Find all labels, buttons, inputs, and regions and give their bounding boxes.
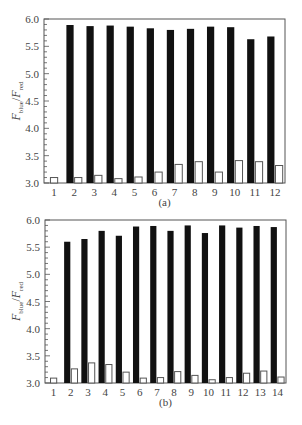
y-tick-label: 5.0	[26, 268, 40, 280]
x-tick-label: 11	[220, 386, 231, 398]
x-tick-label: 8	[192, 186, 198, 198]
y-tick-label: 6.0	[26, 214, 40, 226]
bar-open	[155, 172, 162, 183]
bar-filled	[127, 27, 134, 183]
x-tick-label: 12	[237, 386, 248, 398]
bar-open	[255, 162, 262, 183]
bar-open	[175, 164, 182, 183]
plot-frame	[45, 220, 286, 383]
y-tick-label: 5.5	[26, 241, 40, 253]
y-axis-label: Fblue/Fred	[9, 281, 25, 322]
bar-open	[140, 378, 146, 383]
bar-open	[157, 378, 163, 383]
bar-filled	[207, 27, 214, 183]
y-tick-label: 5.0	[25, 68, 39, 80]
x-tick-label: 8	[171, 386, 177, 398]
bar-open	[261, 371, 267, 383]
x-tick-label: 2	[68, 386, 74, 398]
bar-open	[95, 175, 102, 183]
bar-filled	[64, 242, 70, 383]
bar-open	[115, 179, 122, 183]
bar-open	[243, 373, 249, 383]
y-tick-label: 4.5	[26, 296, 40, 308]
bar-chart-b: 3.03.54.04.55.05.56.0Fblue/Fred123456789…	[0, 212, 302, 425]
bar-open	[226, 378, 232, 383]
bar-chart-a: 3.03.54.04.55.05.56.0Fblue/Fred123456789…	[0, 0, 302, 212]
chart-panel-b: 3.03.54.04.55.05.56.0Fblue/Fred123456789…	[0, 212, 302, 425]
bar-filled	[187, 29, 194, 183]
chart-panel-a: 3.03.54.04.55.05.56.0Fblue/Fred123456789…	[0, 0, 302, 212]
y-tick-label: 3.0	[25, 177, 39, 189]
bar-filled	[147, 28, 154, 183]
y-tick-label: 3.0	[26, 377, 40, 389]
bar-open	[123, 372, 129, 383]
x-tick-label: 12	[269, 186, 280, 198]
bar-filled	[66, 25, 73, 183]
bar-open	[106, 365, 112, 383]
bar-filled	[247, 39, 254, 183]
bar-filled	[150, 226, 156, 383]
x-tick-label: 10	[229, 186, 241, 198]
y-tick-label: 3.5	[26, 350, 40, 362]
x-tick-label: 1	[51, 186, 57, 198]
panel-caption: (b)	[159, 396, 172, 409]
bar-open	[71, 369, 77, 383]
bar-open	[51, 378, 57, 383]
bar-filled	[202, 233, 208, 383]
y-tick-label: 4.0	[26, 323, 40, 335]
panel-caption: (a)	[158, 196, 171, 209]
bar-open	[175, 372, 181, 383]
x-tick-label: 11	[250, 186, 261, 198]
y-tick-label: 5.5	[25, 40, 39, 52]
bar-filled	[236, 228, 242, 383]
bar-filled	[267, 36, 274, 183]
x-tick-label: 9	[189, 386, 195, 398]
y-tick-label: 4.0	[25, 122, 39, 134]
bar-filled	[86, 26, 93, 183]
x-tick-label: 9	[212, 186, 218, 198]
bar-open	[135, 177, 142, 183]
bar-filled	[116, 236, 122, 383]
bar-filled	[99, 231, 105, 383]
x-tick-label: 14	[272, 386, 284, 398]
bar-open	[89, 363, 95, 383]
bar-open	[192, 375, 198, 383]
x-tick-label: 6	[137, 386, 143, 398]
x-tick-label: 6	[152, 186, 158, 198]
x-tick-label: 3	[91, 186, 97, 198]
x-tick-label: 2	[71, 186, 77, 198]
x-tick-label: 5	[132, 186, 138, 198]
bar-filled	[185, 225, 191, 383]
bar-open	[275, 166, 282, 183]
y-tick-label: 4.5	[25, 95, 39, 107]
bar-filled	[133, 227, 139, 383]
bar-filled	[81, 239, 87, 383]
x-tick-label: 13	[255, 386, 267, 398]
bar-filled	[167, 231, 173, 383]
bar-open	[75, 178, 82, 183]
x-tick-label: 1	[51, 386, 57, 398]
bar-open	[195, 162, 202, 183]
y-tick-label: 3.5	[25, 150, 39, 162]
bar-open	[50, 178, 57, 183]
bar-open	[235, 161, 242, 183]
x-tick-label: 10	[203, 386, 215, 398]
bar-open	[215, 172, 222, 183]
bar-open	[278, 377, 284, 383]
x-tick-label: 7	[172, 186, 178, 198]
y-axis-label: Fblue/Fred	[9, 81, 25, 122]
bar-filled	[253, 226, 259, 383]
bar-filled	[167, 30, 174, 183]
bar-open	[209, 380, 215, 383]
bar-filled	[107, 26, 114, 183]
x-tick-label: 4	[112, 186, 118, 198]
y-tick-label: 6.0	[25, 13, 39, 25]
x-tick-label: 5	[120, 386, 126, 398]
bar-filled	[219, 225, 225, 383]
x-tick-label: 4	[103, 386, 109, 398]
x-tick-label: 3	[85, 386, 91, 398]
bar-filled	[227, 27, 234, 183]
bar-filled	[271, 227, 277, 383]
